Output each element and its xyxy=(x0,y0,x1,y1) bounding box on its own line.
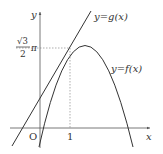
origin-label: O xyxy=(29,131,37,142)
y-axis-label: y xyxy=(30,9,37,20)
x-axis-arrow-icon xyxy=(147,127,150,130)
y-tick-pi: π xyxy=(30,43,38,53)
curve-f-label: y=f(x) xyxy=(110,63,142,74)
x-tick-label-1: 1 xyxy=(67,131,73,142)
y-tick-denominator: 2 xyxy=(20,49,26,59)
function-graph: y x O 1 √3 2 π y=g(x) y=f(x) xyxy=(0,0,163,154)
curve-f xyxy=(39,46,133,148)
x-axis-label: x xyxy=(146,131,152,142)
y-axis-arrow-icon xyxy=(39,12,42,15)
y-tick-numerator: √3 xyxy=(17,36,28,46)
axes xyxy=(10,12,150,148)
line-g xyxy=(12,11,91,146)
curve-g-label: y=g(x) xyxy=(93,11,128,22)
y-tick-label: √3 2 π xyxy=(16,36,38,59)
